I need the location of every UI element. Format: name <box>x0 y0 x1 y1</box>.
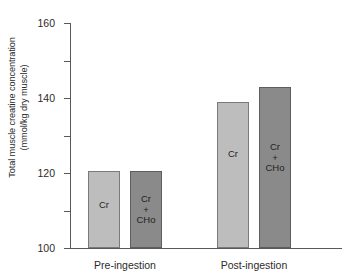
bar-label-pre-cr-cho-line-1: Cr <box>141 193 151 204</box>
y-tick-minor-110 <box>64 211 70 212</box>
bar-label-post-cr-cho-line-2: + <box>272 152 278 163</box>
bar-label-post-cr: Cr <box>218 149 248 160</box>
y-tick-120: 120 <box>64 173 70 174</box>
bar-label-pre-cr: Cr <box>89 200 119 211</box>
y-tick-label-100: 100 <box>37 242 55 254</box>
bar-pre-ingestion-cr: Cr <box>88 171 120 248</box>
y-tick-100: 100 <box>64 248 70 249</box>
y-axis-title-line-2: (mmol/kg dry muscle) <box>18 0 30 218</box>
bar-label-post-cr-cho-line-1: Cr <box>270 141 280 152</box>
bar-label-pre-cr-cho-line-3: CHo <box>136 214 155 225</box>
y-tick-minor-130 <box>64 136 70 137</box>
y-tick-minor-150 <box>64 61 70 62</box>
x-group-label-post-ingestion: Post-ingestion <box>204 259 304 271</box>
bar-post-ingestion-cr: Cr <box>217 102 249 248</box>
bar-post-ingestion-cr-cho: Cr+CHo <box>259 87 291 248</box>
y-tick-label-120: 120 <box>37 167 55 179</box>
y-tick-160: 160 <box>64 23 70 24</box>
bar-label-post-cr-cho: Cr+CHo <box>260 142 290 174</box>
y-axis-line <box>70 23 71 248</box>
bar-label-pre-cr-cho: Cr+CHo <box>131 194 161 226</box>
y-tick-140: 140 <box>64 98 70 99</box>
y-tick-label-140: 140 <box>37 92 55 104</box>
y-tick-label-160: 160 <box>37 17 55 29</box>
plot-area: 160 140 120 100 Cr Cr+CHo Cr Cr+CHo <box>70 23 342 248</box>
bar-pre-ingestion-cr-cho: Cr+CHo <box>130 171 162 248</box>
y-axis-title-line-1: Total muscle creatine concentration <box>7 0 19 218</box>
bar-label-pre-cr-cho-line-2: + <box>143 204 149 215</box>
y-axis-title: Total muscle creatine concentration (mmo… <box>7 0 30 218</box>
bar-chart: Total muscle creatine concentration (mmo… <box>0 0 358 280</box>
x-axis-line <box>70 248 342 249</box>
bar-label-post-cr-cho-line-3: CHo <box>265 162 284 173</box>
x-group-label-pre-ingestion: Pre-ingestion <box>75 259 175 271</box>
